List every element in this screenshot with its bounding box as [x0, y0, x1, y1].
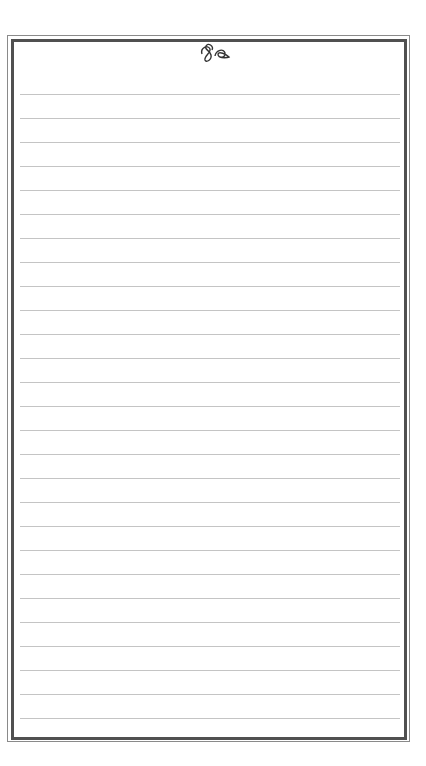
ruled-line — [20, 718, 400, 719]
ruled-line — [20, 190, 400, 191]
ruled-line — [20, 622, 400, 623]
ruled-line — [20, 550, 400, 551]
ruled-line — [20, 214, 400, 215]
ruled-line — [20, 358, 400, 359]
ruled-line — [20, 166, 400, 167]
ruled-line — [20, 382, 400, 383]
flourish-ornament-icon — [198, 40, 232, 64]
ruled-line — [20, 598, 400, 599]
ruled-line — [20, 574, 400, 575]
ruled-line — [20, 142, 400, 143]
ruled-line — [20, 238, 400, 239]
inner-border — [11, 39, 407, 740]
ruled-line — [20, 502, 400, 503]
ruled-line — [20, 262, 400, 263]
ruled-line — [20, 406, 400, 407]
ruled-line — [20, 118, 400, 119]
ruled-line — [20, 94, 400, 95]
ruled-line — [20, 430, 400, 431]
ruled-line — [20, 334, 400, 335]
ruled-line — [20, 454, 400, 455]
ruled-line — [20, 478, 400, 479]
ruled-line — [20, 670, 400, 671]
ruled-line — [20, 286, 400, 287]
ruled-line — [20, 694, 400, 695]
ruled-line — [20, 526, 400, 527]
ruled-line — [20, 646, 400, 647]
ruled-line — [20, 310, 400, 311]
